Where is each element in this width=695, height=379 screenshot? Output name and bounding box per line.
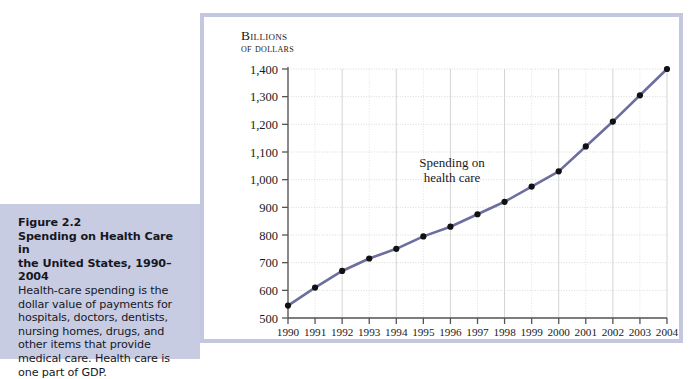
- chart-panel: Billions of dollars 5006007008009001,000…: [200, 13, 683, 343]
- data-point-marker: [447, 224, 453, 230]
- annotation-line-1: Spending on: [419, 155, 485, 170]
- data-point-marker: [501, 199, 507, 205]
- x-axis-ticks: 1990199119921993199419951996199719981999…: [277, 318, 679, 338]
- figure-caption-box: Figure 2.2 Spending on Health Care in th…: [0, 204, 200, 359]
- y-tick-label: 500: [259, 312, 278, 326]
- x-tick-label: 1996: [439, 326, 462, 338]
- grid-lines: [288, 69, 667, 318]
- y-tick-label: 1,400: [250, 63, 278, 77]
- data-point-marker: [637, 92, 643, 98]
- data-point-marker: [339, 268, 345, 274]
- x-tick-label: 1990: [277, 326, 300, 338]
- chart-inner: Billions of dollars 5006007008009001,000…: [204, 17, 679, 339]
- y-tick-label: 1,000: [250, 173, 278, 187]
- data-point-marker: [610, 118, 616, 124]
- x-tick-label: 1991: [304, 326, 326, 338]
- series-annotation-label: Spending onhealth care: [419, 155, 485, 185]
- x-tick-label: 1994: [385, 326, 408, 338]
- data-point-marker: [312, 284, 318, 290]
- x-tick-label: 1999: [520, 326, 543, 338]
- x-tick-label: 1998: [493, 326, 516, 338]
- data-point-marker: [529, 183, 535, 189]
- y-tick-label: 800: [259, 229, 278, 243]
- data-point-marker: [285, 302, 291, 308]
- data-point-marker: [474, 211, 480, 217]
- data-point-marker: [556, 168, 562, 174]
- data-point-marker: [420, 233, 426, 239]
- x-tick-label: 1995: [412, 326, 435, 338]
- y-tick-label: 900: [259, 201, 278, 215]
- y-tick-label: 1,100: [250, 146, 278, 160]
- data-point-marker: [664, 66, 670, 72]
- y-tick-label: 700: [259, 256, 278, 270]
- y-tick-label: 1,200: [250, 118, 278, 132]
- y-axis-ticks: 5006007008009001,0001,1001,2001,3001,400: [250, 63, 288, 326]
- annotation-line-2: health care: [424, 170, 481, 185]
- x-tick-label: 2001: [575, 326, 597, 338]
- figure-number: Figure 2.2: [18, 216, 81, 229]
- x-tick-label: 1992: [331, 326, 353, 338]
- y-tick-label: 1,300: [250, 90, 278, 104]
- figure-title-line-2: the United States, 1990–2004: [18, 257, 172, 284]
- x-tick-label: 2003: [629, 326, 652, 338]
- y-tick-label: 600: [259, 284, 278, 298]
- data-point-marker: [583, 143, 589, 149]
- figure-caption-title: Figure 2.2 Spending on Health Care in th…: [18, 216, 186, 284]
- data-point-marker: [366, 255, 372, 261]
- x-tick-label: 1997: [466, 326, 489, 338]
- x-tick-label: 2004: [656, 326, 679, 338]
- line-chart-plot: 5006007008009001,0001,1001,2001,3001,400…: [204, 17, 679, 339]
- figure-title-line-1: Spending on Health Care in: [18, 230, 173, 257]
- x-tick-label: 2002: [602, 326, 624, 338]
- x-tick-label: 1993: [358, 326, 381, 338]
- figure-caption-body: Health-care spending is the dollar value…: [18, 284, 186, 379]
- data-point-marker: [393, 246, 399, 252]
- x-tick-label: 2000: [548, 326, 571, 338]
